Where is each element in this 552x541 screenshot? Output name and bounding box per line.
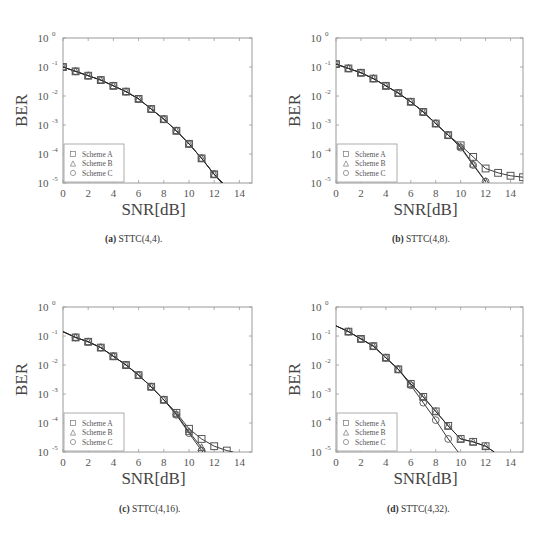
y-tick-label: 10 <box>38 90 50 102</box>
y-tick-exponent: -5 <box>325 444 331 452</box>
x-tick-label: 2 <box>85 187 91 199</box>
y-tick-exponent: -5 <box>325 175 331 183</box>
y-tick-label: 10 <box>38 330 50 342</box>
subplot-d: 0246810121410010-110-210-310-410-5SNR[dB… <box>285 299 523 488</box>
caption-a-label: (a) <box>105 234 116 244</box>
x-tick-label: 0 <box>60 456 66 468</box>
y-tick-label: 10 <box>311 359 323 371</box>
y-tick-exponent: 0 <box>325 299 329 307</box>
y-tick-label: 10 <box>38 417 50 429</box>
x-tick-label: 8 <box>161 456 167 468</box>
caption-a: (a) STTC(4,4). <box>105 234 162 244</box>
subplot-a: 0246810121410010-110-210-310-410-5SNR[dB… <box>12 30 252 219</box>
x-tick-label: 14 <box>234 456 246 468</box>
y-tick-label: 10 <box>38 119 50 131</box>
y-tick-exponent: -3 <box>325 386 331 394</box>
y-tick-exponent: -3 <box>52 117 58 125</box>
x-tick-label: 0 <box>333 187 339 199</box>
y-tick-exponent: -2 <box>325 88 331 96</box>
y-tick-label: 10 <box>311 177 323 189</box>
y-tick-label: 10 <box>311 61 323 73</box>
x-tick-label: 14 <box>505 456 517 468</box>
y-tick-label: 10 <box>38 446 50 458</box>
subplot-c: 0246810121410010-110-210-310-410-5SNR[dB… <box>12 299 252 488</box>
y-tick-exponent: -4 <box>52 146 58 154</box>
y-tick-exponent: -1 <box>52 59 58 67</box>
y-tick-exponent: -1 <box>325 59 331 67</box>
x-tick-label: 4 <box>383 456 389 468</box>
x-tick-label: 12 <box>209 187 220 199</box>
y-tick-label: 10 <box>311 446 323 458</box>
y-tick-exponent: -5 <box>52 175 58 183</box>
x-tick-label: 8 <box>433 187 439 199</box>
legend-b: Scheme AScheme BScheme C <box>337 144 397 182</box>
y-axis-label: BER <box>12 362 31 396</box>
y-tick-label: 10 <box>311 330 323 342</box>
y-tick-exponent: 0 <box>52 299 56 307</box>
x-axis-label: SNR[dB] <box>393 200 457 219</box>
x-tick-label: 10 <box>184 456 196 468</box>
caption-b: (b) STTC(4,8). <box>392 234 450 244</box>
y-tick-label: 10 <box>311 32 323 44</box>
y-tick-exponent: -4 <box>325 415 331 423</box>
y-tick-label: 10 <box>311 90 323 102</box>
x-tick-label: 6 <box>136 187 142 199</box>
legend-entry-label: Scheme C <box>82 169 113 178</box>
legend-entry-label: Scheme B <box>82 159 113 168</box>
x-tick-label: 14 <box>505 187 517 199</box>
x-tick-label: 10 <box>455 456 467 468</box>
y-tick-exponent: -2 <box>325 357 331 365</box>
y-tick-label: 10 <box>311 148 323 160</box>
legend-entry-label: Scheme B <box>355 159 386 168</box>
x-tick-label: 10 <box>455 187 467 199</box>
x-tick-label: 0 <box>60 187 66 199</box>
y-tick-label: 10 <box>38 177 50 189</box>
y-tick-exponent: 0 <box>52 30 56 38</box>
x-tick-label: 4 <box>383 187 389 199</box>
legend-entry-label: Scheme A <box>355 150 386 159</box>
legend-entry-label: Scheme A <box>82 419 113 428</box>
x-tick-label: 12 <box>480 456 491 468</box>
y-tick-label: 10 <box>38 359 50 371</box>
legend-entry-label: Scheme B <box>82 428 113 437</box>
legend-entry-label: Scheme A <box>355 419 386 428</box>
x-tick-label: 8 <box>161 187 167 199</box>
legend-d: Scheme AScheme BScheme C <box>337 413 397 451</box>
y-tick-label: 10 <box>311 417 323 429</box>
y-axis-label: BER <box>285 93 304 127</box>
caption-d-text: STTC(4,32). <box>401 504 450 514</box>
legend-a: Scheme AScheme BScheme C <box>64 144 124 182</box>
y-tick-exponent: -5 <box>52 444 58 452</box>
y-tick-label: 10 <box>38 301 50 313</box>
y-tick-label: 10 <box>311 119 323 131</box>
y-axis-label: BER <box>285 362 304 396</box>
y-tick-label: 10 <box>38 148 50 160</box>
y-tick-exponent: -3 <box>325 117 331 125</box>
y-tick-label: 10 <box>311 388 323 400</box>
figure-canvas: 0246810121410010-110-210-310-410-5SNR[dB… <box>0 0 552 541</box>
legend-entry-label: Scheme C <box>355 169 386 178</box>
x-tick-label: 2 <box>358 187 364 199</box>
legend-entry-label: Scheme C <box>82 438 113 447</box>
x-tick-label: 12 <box>209 456 220 468</box>
x-axis-label: SNR[dB] <box>121 200 185 219</box>
x-tick-label: 8 <box>433 456 439 468</box>
x-tick-label: 6 <box>136 456 142 468</box>
y-axis-label: BER <box>12 93 31 127</box>
caption-d: (d) STTC(4,32). <box>387 504 450 514</box>
y-tick-exponent: -4 <box>52 415 58 423</box>
x-tick-label: 12 <box>480 187 491 199</box>
x-tick-label: 6 <box>408 456 414 468</box>
caption-b-label: (b) <box>392 234 404 244</box>
y-tick-exponent: 0 <box>325 30 329 38</box>
caption-c-text: STTC(4,16). <box>132 504 181 514</box>
caption-c: (c) STTC(4,16). <box>119 504 180 514</box>
legend-entry-label: Scheme B <box>355 428 386 437</box>
x-tick-label: 2 <box>358 456 364 468</box>
x-tick-label: 10 <box>184 187 196 199</box>
x-axis-label: SNR[dB] <box>121 469 185 488</box>
x-tick-label: 2 <box>85 456 91 468</box>
legend-entry-label: Scheme A <box>82 150 113 159</box>
y-tick-label: 10 <box>38 61 50 73</box>
y-tick-exponent: -2 <box>52 88 58 96</box>
